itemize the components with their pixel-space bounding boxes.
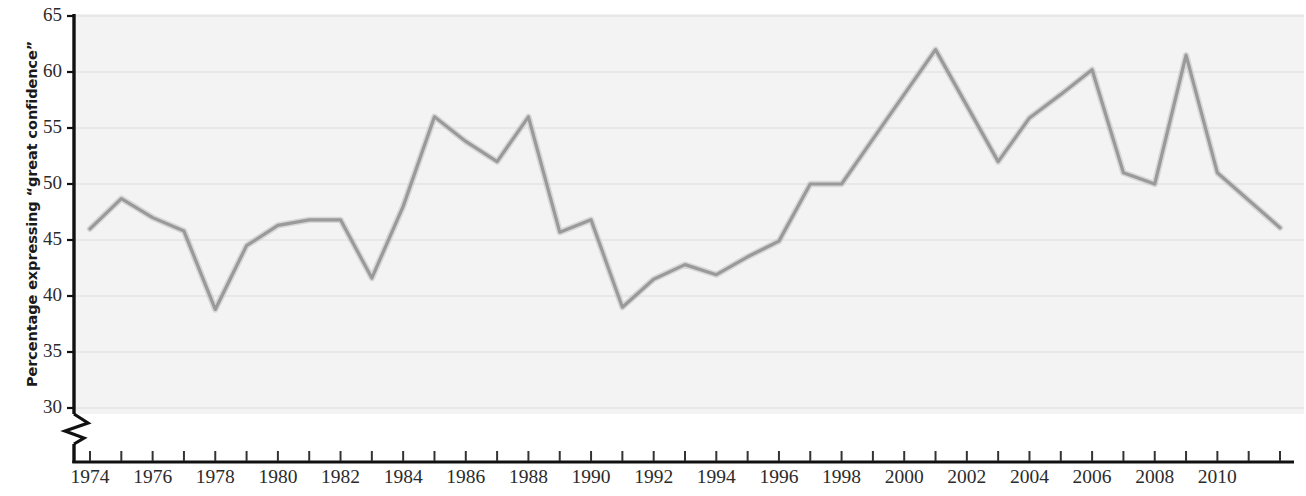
- data-line: [90, 50, 1280, 310]
- y-axis-tick-label: 30: [18, 396, 62, 418]
- y-axis-break-icon: [65, 414, 88, 444]
- y-axis-tick-label: 65: [18, 4, 62, 26]
- chart-canvas: [0, 0, 1306, 496]
- y-axis-tick-label: 60: [18, 60, 62, 82]
- y-axis-tick-label: 40: [18, 284, 62, 306]
- y-axis-tick-label: 35: [18, 340, 62, 362]
- gridlines: [74, 16, 1304, 408]
- y-axis-tick-label: 55: [18, 116, 62, 138]
- y-axis-tick-label: 45: [18, 228, 62, 250]
- x-axis-ticks: [90, 451, 1280, 461]
- chart-figure: Percentage expressing “great confidence”…: [0, 0, 1306, 496]
- y-axis-tick-label: 50: [18, 172, 62, 194]
- data-line-halo: [90, 50, 1280, 310]
- data-series-group: [90, 50, 1280, 310]
- axis-break-zigzag: [65, 414, 88, 444]
- x-axis-tick-label: 2010: [1177, 466, 1257, 488]
